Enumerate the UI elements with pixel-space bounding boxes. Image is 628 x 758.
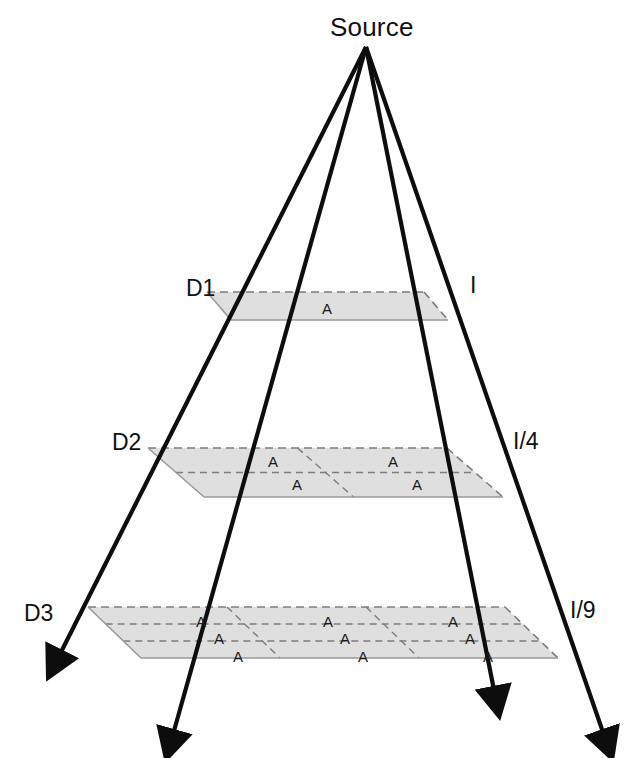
area-cell-label: A (323, 613, 333, 630)
area-cell-label: A (214, 630, 224, 647)
planes-group (88, 292, 558, 658)
area-cell-label: A (268, 453, 278, 470)
area-cell-label: A (388, 453, 398, 470)
distance-label-d3: D3 (24, 600, 53, 627)
intensity-label-i3: I/9 (570, 597, 596, 624)
area-cell-label: A (465, 630, 475, 647)
ray-to-front-left (58, 47, 366, 658)
source-label: Source (330, 12, 414, 43)
intensity-label-i2: I/4 (513, 428, 539, 455)
ray-to-front-right (366, 47, 495, 695)
area-cell-label: A (292, 476, 302, 493)
area-cell-label: A (322, 300, 332, 317)
area-cell-label: A (233, 648, 243, 665)
area-cell-label: A (412, 476, 422, 493)
area-cell-label: A (196, 613, 206, 630)
distance-label-d1: D1 (186, 275, 215, 302)
area-cell-label: A (448, 613, 458, 630)
intensity-label-i1: I (470, 272, 476, 299)
area-cell-label: A (358, 648, 368, 665)
inverse-square-law-figure: Source AAAAAAAAAAAAAAD1D2D3II/4I/9 (0, 0, 628, 758)
area-cell-label: A (340, 630, 350, 647)
distance-label-d2: D2 (112, 429, 141, 456)
diagram-canvas (0, 0, 628, 758)
area-cell-label: A (483, 648, 493, 665)
